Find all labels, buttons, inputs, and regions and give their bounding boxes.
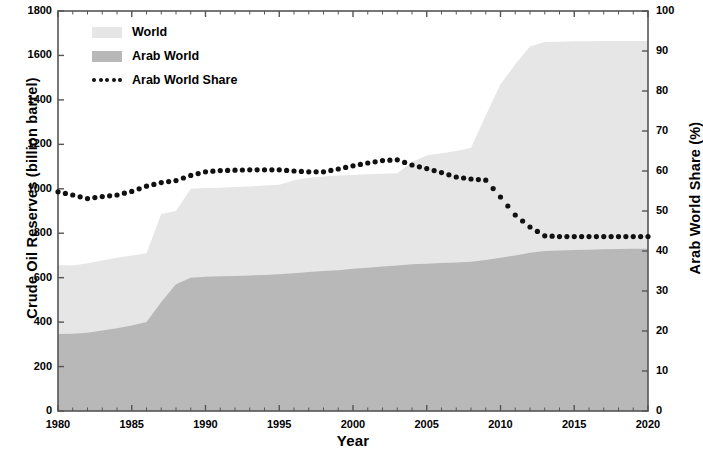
share-data-point [513, 212, 518, 217]
share-data-point [232, 168, 237, 173]
share-data-point [159, 180, 164, 185]
share-data-point [114, 192, 119, 197]
y-tick-left-200: 200 [6, 360, 52, 372]
share-data-point [188, 173, 193, 178]
y-tick-left-1600: 1600 [6, 48, 52, 60]
share-data-point [542, 233, 547, 238]
y-tick-right-20: 20 [656, 324, 702, 336]
legend-dots-arab-world-share [92, 75, 122, 86]
share-data-point [424, 166, 429, 171]
legend-item-world: World [92, 20, 237, 44]
y-tick-left-1400: 1400 [6, 93, 52, 105]
share-data-point [350, 163, 355, 168]
share-data-point [181, 175, 186, 180]
share-data-point [609, 234, 614, 239]
share-data-point [550, 234, 555, 239]
share-data-point [306, 169, 311, 174]
share-data-point [210, 169, 215, 174]
x-tick-2020: 2020 [623, 418, 673, 430]
share-data-point [196, 171, 201, 176]
x-tick-2010: 2010 [476, 418, 526, 430]
share-data-point [638, 234, 643, 239]
share-data-point [520, 218, 525, 223]
share-data-point [85, 196, 90, 201]
share-data-point [586, 234, 591, 239]
y-tick-right-40: 40 [656, 244, 702, 256]
share-data-point [432, 168, 437, 173]
share-data-point [645, 234, 650, 239]
x-tick-1980: 1980 [33, 418, 83, 430]
share-data-point [299, 169, 304, 174]
y-tick-left-1000: 1000 [6, 182, 52, 194]
y-tick-right-0: 0 [656, 404, 702, 416]
legend-swatch-world [92, 27, 122, 38]
share-data-point [476, 177, 481, 182]
share-data-point [269, 167, 274, 172]
y-tick-left-600: 600 [6, 271, 52, 283]
share-data-point [129, 189, 134, 194]
share-data-point [439, 170, 444, 175]
share-data-point [63, 191, 68, 196]
y-tick-left-1800: 1800 [6, 4, 52, 16]
share-data-point [166, 179, 171, 184]
share-data-point [203, 169, 208, 174]
share-data-point [579, 234, 584, 239]
share-data-point [623, 234, 628, 239]
share-data-point [461, 175, 466, 180]
share-data-point [631, 234, 636, 239]
share-data-point [336, 166, 341, 171]
x-tick-2000: 2000 [328, 418, 378, 430]
share-data-point [454, 174, 459, 179]
share-data-point [417, 164, 422, 169]
share-data-point [557, 234, 562, 239]
legend-item-arab-world: Arab World [92, 44, 237, 68]
share-data-point [380, 158, 385, 163]
share-data-point [225, 168, 230, 173]
x-tick-1990: 1990 [181, 418, 231, 430]
x-tick-1995: 1995 [254, 418, 304, 430]
share-data-point [564, 234, 569, 239]
share-data-point [78, 194, 83, 199]
share-data-point [498, 194, 503, 199]
share-data-point [277, 167, 282, 172]
share-data-point [262, 167, 267, 172]
share-data-point [255, 167, 260, 172]
y-tick-right-100: 100 [656, 4, 702, 16]
legend-label-arab-world: Arab World [132, 49, 199, 63]
share-data-point [247, 167, 252, 172]
share-data-point [343, 165, 348, 170]
share-data-point [601, 234, 606, 239]
share-data-point [468, 176, 473, 181]
share-data-point [284, 168, 289, 173]
y-tick-right-90: 90 [656, 44, 702, 56]
share-data-point [491, 186, 496, 191]
y-tick-right-70: 70 [656, 124, 702, 136]
y-tick-right-60: 60 [656, 164, 702, 176]
share-data-point [505, 203, 510, 208]
legend-item-arab-world-share: Arab World Share [92, 68, 237, 92]
share-data-point [572, 234, 577, 239]
share-data-point [365, 160, 370, 165]
share-data-point [328, 168, 333, 173]
chart-legend: World Arab World Arab World Share [92, 20, 237, 92]
share-data-point [137, 186, 142, 191]
share-data-point [151, 182, 156, 187]
x-tick-1985: 1985 [107, 418, 157, 430]
y-tick-left-1200: 1200 [6, 137, 52, 149]
legend-swatch-arab-world [92, 51, 122, 62]
share-data-point [358, 162, 363, 167]
y-tick-right-10: 10 [656, 364, 702, 376]
share-data-point [218, 168, 223, 173]
share-data-point [314, 169, 319, 174]
share-data-point [535, 229, 540, 234]
share-data-point [122, 191, 127, 196]
share-data-point [321, 169, 326, 174]
share-data-point [100, 194, 105, 199]
share-data-point [144, 184, 149, 189]
share-data-point [107, 193, 112, 198]
y-tick-left-800: 800 [6, 226, 52, 238]
legend-label-arab-world-share: Arab World Share [132, 73, 237, 87]
share-data-point [527, 224, 532, 229]
x-axis-label: Year [58, 432, 648, 449]
